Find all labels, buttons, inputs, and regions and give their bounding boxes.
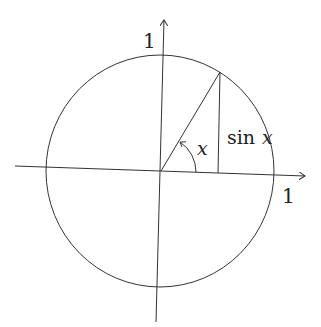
sine-segment: [218, 72, 220, 173]
unit-circle-diagram: 1 1 x sin x: [0, 0, 321, 327]
sine-variable-label: x: [262, 126, 273, 148]
y-axis-one-label: 1: [143, 29, 156, 53]
sine-function-label: sin: [227, 126, 255, 148]
angle-label: x: [197, 137, 208, 159]
x-axis-one-label: 1: [282, 184, 295, 208]
angle-arc: [180, 142, 196, 172]
radius-line: [161, 72, 220, 171]
